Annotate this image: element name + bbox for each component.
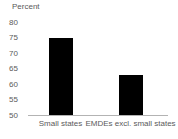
- bar: [119, 75, 143, 115]
- x-category-label: Small states: [39, 119, 83, 128]
- y-tick-label: 80: [4, 18, 18, 27]
- bar-chart: Percent 80757065605550 Small statesEMDEs…: [0, 0, 178, 139]
- x-category-label: EMDEs excl. small states: [85, 119, 175, 128]
- y-axis-unit-label: Percent: [12, 2, 40, 11]
- y-tick-label: 60: [4, 80, 18, 89]
- y-tick-label: 75: [4, 33, 18, 42]
- y-tick-label: 70: [4, 49, 18, 58]
- y-tick-label: 55: [4, 95, 18, 104]
- x-axis-line: [28, 115, 168, 116]
- y-tick-label: 65: [4, 64, 18, 73]
- bar: [49, 38, 73, 116]
- y-tick-label: 50: [4, 111, 18, 120]
